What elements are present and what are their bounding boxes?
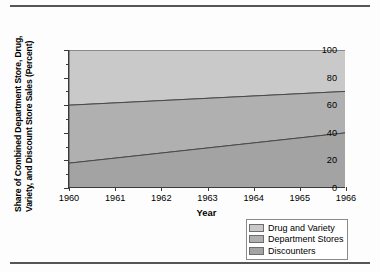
legend-item-department-stores: Department Stores	[249, 234, 344, 246]
x-tick-label: 1965	[290, 193, 310, 203]
top-rule	[10, 5, 370, 7]
x-tick	[254, 187, 255, 191]
y-axis-title: Share of Combined Department Store, Drug…	[0, 0, 34, 230]
x-tick-label: 1963	[197, 193, 217, 203]
y-tick-label: 20	[327, 155, 337, 165]
y-tick-minor	[66, 64, 69, 65]
y-tick-label: 0	[332, 183, 337, 193]
x-tick	[69, 187, 70, 191]
y-tick-major	[64, 78, 69, 79]
stacked-area-bands	[69, 50, 345, 187]
x-tick-label: 1961	[105, 193, 125, 203]
legend: Drug and Variety Department Stores Disco…	[246, 219, 348, 260]
x-tick	[300, 187, 301, 191]
figure-canvas: Share of Combined Department Store, Drug…	[0, 0, 380, 272]
x-tick	[208, 187, 209, 191]
plot-area: 020406080100 196019611962196319641965196…	[68, 50, 345, 188]
y-tick-major	[64, 50, 69, 51]
bottom-rule	[10, 262, 370, 264]
x-tick-label: 1964	[243, 193, 263, 203]
x-axis-title: Year	[68, 207, 345, 218]
y-tick-minor	[66, 91, 69, 92]
legend-label-discounters: Discounters	[268, 246, 316, 256]
x-tick-label: 1960	[59, 193, 79, 203]
y-tick-minor	[66, 147, 69, 148]
legend-item-drug-and-variety: Drug and Variety	[249, 222, 344, 234]
legend-item-discounters: Discounters	[249, 245, 344, 257]
y-axis-title-line-1: Share of Combined Department Store, Drug…	[13, 36, 23, 212]
y-tick-minor	[66, 174, 69, 175]
y-tick-major	[64, 133, 69, 134]
x-tick	[115, 187, 116, 191]
legend-swatch-discounters	[249, 247, 264, 255]
legend-label-department-stores: Department Stores	[268, 234, 344, 244]
x-tick-label: 1962	[151, 193, 171, 203]
legend-label-drug-and-variety: Drug and Variety	[268, 223, 335, 233]
legend-swatch-drug-and-variety	[249, 224, 264, 232]
y-axis-title-line-2: Variety, and Discount Store Sales (Perce…	[24, 41, 34, 212]
x-tick	[161, 187, 162, 191]
x-tick-label: 1966	[336, 193, 356, 203]
y-tick-major	[64, 160, 69, 161]
y-tick-label: 80	[327, 73, 337, 83]
y-tick-minor	[66, 119, 69, 120]
x-tick	[346, 187, 347, 191]
y-tick-label: 100	[322, 45, 337, 55]
y-tick-major	[64, 105, 69, 106]
y-tick-label: 60	[327, 100, 337, 110]
y-tick-label: 40	[327, 128, 337, 138]
legend-swatch-department-stores	[249, 235, 264, 243]
